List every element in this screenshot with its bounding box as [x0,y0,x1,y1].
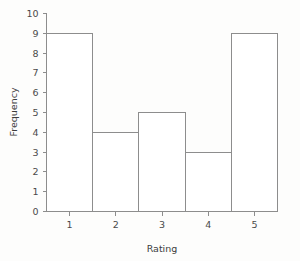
x-tick-label-4: 4 [205,219,211,230]
y-tick-label-2: 2 [32,166,38,177]
y-tick-label-9: 9 [32,28,38,39]
x-tick-label-1: 1 [67,219,73,230]
histogram-chart: 012345678910 12345 Rating Frequency [0,0,300,261]
bars-group [47,33,278,211]
y-tick-label-10: 10 [26,8,38,19]
y-axis-ticks: 012345678910 [26,8,46,217]
x-tick-label-2: 2 [113,219,119,230]
bar-1 [47,33,93,211]
y-tick-label-5: 5 [32,107,38,118]
y-tick-label-0: 0 [32,206,38,217]
y-tick-label-8: 8 [32,48,38,59]
x-axis-ticks: 12345 [67,212,258,230]
y-tick-label-7: 7 [32,67,38,78]
y-axis-title: Frequency [8,87,19,136]
bar-5 [231,33,277,211]
y-tick-label-3: 3 [32,147,38,158]
chart-canvas: 012345678910 12345 Rating Frequency [0,0,300,261]
bar-4 [185,152,231,211]
y-tick-label-6: 6 [32,87,38,98]
bar-3 [139,113,185,212]
y-tick-label-1: 1 [32,186,38,197]
x-tick-label-3: 3 [159,219,165,230]
x-tick-label-5: 5 [251,219,257,230]
y-tick-label-4: 4 [32,127,38,138]
bar-2 [93,132,139,211]
x-axis-title: Rating [147,243,178,254]
